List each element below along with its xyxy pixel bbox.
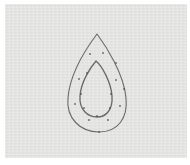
dot-marker — [115, 79, 117, 81]
dot-marker — [78, 78, 80, 80]
dot-marker — [110, 93, 112, 95]
dot-marker — [98, 131, 100, 133]
dot-marker — [83, 107, 85, 109]
dot-marker — [86, 72, 88, 74]
dot-marker — [96, 115, 98, 117]
teardrop-sketch — [0, 0, 190, 165]
dot-marker — [102, 52, 104, 54]
dot-marker — [107, 119, 109, 121]
dot-marker — [119, 105, 121, 107]
dot-marker — [123, 88, 125, 90]
dot-marker — [74, 103, 76, 105]
inner-teardrop-outline — [80, 61, 112, 117]
dot-marker — [80, 93, 82, 95]
dot-marker — [115, 62, 117, 64]
dot-marker — [89, 53, 91, 55]
dot-marker — [88, 119, 90, 121]
dot-marker — [109, 107, 111, 109]
